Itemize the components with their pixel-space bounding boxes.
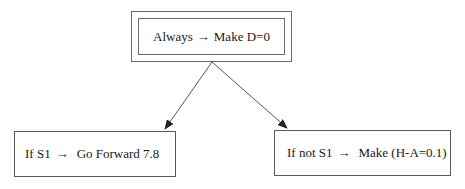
left-node: If S1 → Go Forward 7.8 [14, 131, 176, 177]
decision-tree-diagram: Always → Make D=0 If S1 → Go Forward 7.8… [0, 0, 465, 189]
root-node: Always → Make D=0 [131, 11, 292, 62]
edge-root-to-right [212, 62, 287, 128]
root-action: Make D=0 [214, 29, 270, 45]
root-condition: Always [153, 29, 193, 45]
edge-root-to-left [165, 62, 212, 129]
left-action: Go Forward 7.8 [77, 146, 160, 162]
right-arrow-icon: → [338, 145, 351, 161]
right-arrow-icon: → [197, 29, 210, 45]
right-arrow-icon: → [56, 146, 69, 162]
left-condition: If S1 [25, 146, 51, 162]
right-action: Make (H-A=0.1) [359, 145, 447, 161]
root-node-inner-border: Always → Make D=0 [138, 18, 285, 55]
right-condition: If not S1 [287, 145, 333, 161]
right-node: If not S1 → Make (H-A=0.1) [274, 130, 451, 176]
